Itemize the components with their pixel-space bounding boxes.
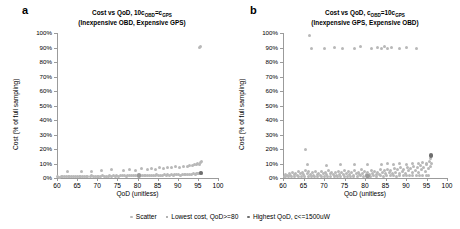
- panel-b-y-tick-label: 40%: [266, 117, 278, 123]
- panel-a-y-tick-label: 60%: [40, 88, 52, 94]
- panel-b-y-tick-label: 70%: [266, 74, 278, 80]
- panel-b-data-point: [365, 174, 369, 178]
- panel-b-data-point: [429, 153, 433, 157]
- panel-a-data-point: [199, 171, 203, 175]
- panel-a-data-point: [66, 170, 69, 173]
- panel-b-y-tick: [280, 135, 283, 136]
- panel-a-y-tick-label: 10%: [40, 161, 52, 167]
- panel-a-x-tick-label: 65: [73, 182, 80, 190]
- panel-a-x-tick: [178, 178, 179, 181]
- panel-b-plot-area: 0%10%20%30%40%50%60%70%80%90%100%6065707…: [283, 33, 447, 178]
- panel-b-data-point: [380, 47, 383, 50]
- panel-a-y-axis: [57, 33, 58, 178]
- panel-b-data-point: [390, 46, 393, 49]
- panel-b-data-point: [353, 163, 356, 166]
- panel-b-x-tick: [365, 178, 366, 181]
- panel-b-subtitle: (Inexpensive GPS, Expensive OBD): [311, 19, 418, 26]
- panel-a: a Cost vs QoD, 10cOBD=cGPS (Inexpensive …: [0, 0, 230, 205]
- panel-a-y-tick: [54, 164, 57, 165]
- panel-a-y-tick-label: 0%: [43, 175, 52, 181]
- panel-b-y-tick: [280, 149, 283, 150]
- panel-a-y-tick: [54, 91, 57, 92]
- panel-a-y-tick-label: 50%: [40, 103, 52, 109]
- panel-a-data-point: [150, 167, 153, 170]
- panel-b-data-point: [308, 34, 311, 37]
- panel-b-y-axis: [283, 33, 284, 178]
- panel-a-data-point: [182, 165, 185, 168]
- panel-b-data-point: [333, 46, 336, 49]
- panel-b-data-point: [341, 47, 344, 50]
- legend-item-1[interactable]: Lowest cost, QoD>=80: [166, 213, 239, 221]
- panel-a-data-point: [154, 168, 157, 171]
- panel-b-data-point: [339, 175, 342, 178]
- panel-a-data-point: [170, 166, 173, 169]
- panel-b-y-tick: [280, 106, 283, 107]
- panel-b-y-tick-label: 50%: [266, 103, 278, 109]
- panel-b-y-tick: [280, 91, 283, 92]
- panel-b-data-point: [411, 162, 414, 165]
- panel-a-data-point: [100, 169, 103, 172]
- panel-b-data-point: [427, 174, 430, 177]
- panel-letter-b: b: [250, 4, 257, 16]
- panel-b-title: Cost vs QoD, cOBD=10cGPS (Inexpensive GP…: [274, 8, 456, 27]
- legend-label: Scatter: [136, 213, 157, 221]
- panel-b-data-point: [429, 165, 432, 168]
- panel-b-data-point: [430, 162, 433, 165]
- panel-a-x-tick: [117, 178, 118, 181]
- panel-b-y-tick: [280, 33, 283, 34]
- panel-a-y-tick-label: 90%: [40, 45, 52, 51]
- panel-b-y-tick: [280, 62, 283, 63]
- legend-item-2[interactable]: Highest QoD, c<=1500uW: [247, 213, 330, 221]
- panel-b-x-tick: [406, 178, 407, 181]
- panel-b-x-tick: [427, 178, 428, 181]
- panel-a-data-point: [90, 170, 93, 173]
- panel-b-data-point: [398, 174, 401, 177]
- panel-a-y-tick: [54, 33, 57, 34]
- panel-a-data-point: [178, 166, 181, 169]
- panel-b-x-tick-label: 60: [279, 182, 286, 190]
- figure-legend: ScatterLowest cost, QoD>=80Highest QoD, …: [0, 206, 460, 228]
- legend-marker-icon: [166, 216, 169, 219]
- panel-a-x-tick: [218, 178, 219, 181]
- panel-a-x-tick-label: 90: [174, 182, 181, 190]
- panel-b-data-point: [398, 162, 401, 165]
- panel-a-x-tick-label: 75: [114, 182, 121, 190]
- panel-b-data-point: [306, 163, 309, 166]
- panel-b-data-point: [386, 162, 389, 165]
- panel-b-y-tick: [280, 77, 283, 78]
- panel-b-x-tick: [386, 178, 387, 181]
- panel-b-x-tick-label: 100: [441, 182, 452, 190]
- panel-b-data-point: [421, 161, 424, 164]
- panel-b-data-point: [421, 174, 424, 177]
- panel-b-data-point: [325, 164, 328, 167]
- panel-b-data-point: [405, 163, 408, 166]
- panel-b-data-point: [339, 163, 342, 166]
- panel-a-y-tick: [54, 149, 57, 150]
- panel-b-x-tick-label: 95: [423, 182, 430, 190]
- panel-a-data-point: [110, 168, 113, 171]
- figure-root: a Cost vs QoD, 10cOBD=cGPS (Inexpensive …: [0, 0, 460, 229]
- panel-b-x-tick: [324, 178, 325, 181]
- legend-label: Highest QoD, c<=1500uW: [253, 213, 330, 221]
- panel-b-data-point: [385, 174, 388, 177]
- panel-b-yaxis-title: Cost (% of full sampling): [238, 79, 245, 150]
- panel-a-title-sub-gps: GPS: [162, 13, 172, 18]
- panel-b-y-tick-label: 100%: [262, 30, 278, 36]
- panel-a-x-tick: [77, 178, 78, 181]
- panel-a-y-tick-label: 40%: [40, 117, 52, 123]
- panel-b-y-tick-label: 10%: [266, 161, 278, 167]
- panel-a-xaxis-title: QoD (unitless): [57, 190, 218, 197]
- panel-b-x-tick-label: 80: [361, 182, 368, 190]
- panel-b-x-tick-label: 75: [341, 182, 348, 190]
- panel-b-data-point: [353, 47, 356, 50]
- legend-item-0[interactable]: Scatter: [130, 213, 156, 221]
- panel-b-data-point: [398, 47, 401, 50]
- panel-a-y-tick-label: 80%: [40, 59, 52, 65]
- panel-a-y-tick-label: 70%: [40, 74, 52, 80]
- panel-a-x-tick-label: 60: [53, 182, 60, 190]
- panel-b-xaxis-title: QoD (unitless): [283, 190, 447, 197]
- legend-marker-icon: [247, 216, 250, 219]
- panel-b-y-tick: [280, 120, 283, 121]
- panel-b-y-tick-label: 60%: [266, 88, 278, 94]
- panel-b-data-point: [425, 162, 428, 165]
